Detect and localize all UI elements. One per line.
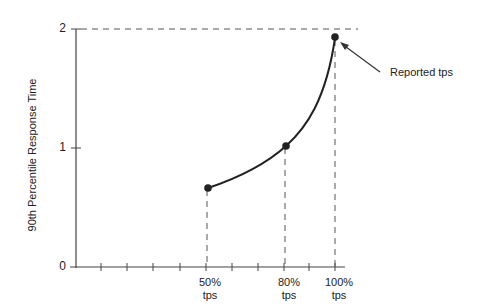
annotation-arrow-line [342,44,380,72]
data-point-80pct [282,142,290,150]
y-tick-label-2: 2 [46,21,66,35]
y-axis-label: 90th Percentile Response Time [26,79,38,232]
x-label-100pct: 100% tps [319,276,359,302]
data-point-50pct [204,184,212,192]
x-label-100pct-value: 100% [319,276,359,289]
x-label-50pct-value: 50% [190,276,230,289]
response-time-curve [208,38,335,188]
annotation-reported-tps: Reported tps [390,66,453,78]
x-label-80pct-unit: tps [269,289,309,302]
x-label-50pct: 50% tps [190,276,230,302]
y-tick-label-1: 1 [46,140,66,154]
x-label-50pct-unit: tps [190,289,230,302]
x-label-80pct-value: 80% [269,276,309,289]
data-point-100pct [331,33,339,41]
chart-canvas [0,0,480,307]
y-tick-label-0: 0 [46,259,66,273]
x-label-100pct-unit: tps [319,289,359,302]
x-label-80pct: 80% tps [269,276,309,302]
